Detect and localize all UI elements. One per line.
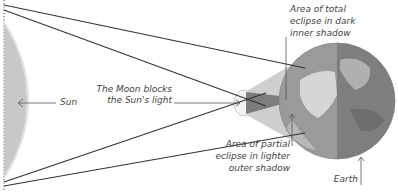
penumbra-label-line3: outer shadow [210,163,290,174]
umbra-label-line2: eclipse in dark [290,16,356,27]
penumbra-label-line1: Area of partial [210,139,290,150]
penumbra-label-line2: eclipse in lighter [210,151,290,162]
umbra-label-line1: Area of total [290,4,346,15]
moon-label-line1: The Moon blocks [96,84,172,95]
earth-label: Earth [318,174,358,185]
moon-label-line2: the Sun's light [96,95,172,106]
umbra-label-line3: inner shadow [290,28,351,39]
sun-label: Sun [60,97,77,108]
earth-globe [279,43,395,159]
